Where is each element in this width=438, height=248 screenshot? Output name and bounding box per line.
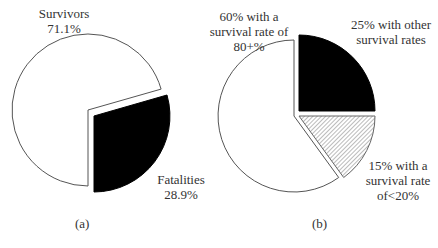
caption-a: (a) bbox=[75, 216, 89, 232]
label-white-line2: survival rate of bbox=[194, 24, 304, 39]
label-white-line3: 80+% bbox=[194, 39, 304, 54]
label-fatalities: Fatalities 28.9% bbox=[146, 172, 216, 202]
caption-b: (b) bbox=[312, 216, 327, 232]
label-black-line1: 25% with other bbox=[344, 17, 438, 32]
label-hatch-line2: survival rate bbox=[358, 173, 438, 188]
label-survival-under-20: 15% with a survival rate of<20% bbox=[358, 158, 438, 203]
label-survival-80-plus: 60% with a survival rate of 80+% bbox=[194, 9, 304, 54]
label-other-survival: 25% with other survival rates bbox=[344, 17, 438, 47]
label-black-line2: survival rates bbox=[344, 32, 438, 47]
pie-chart-a bbox=[12, 34, 170, 192]
label-hatch-line1: 15% with a bbox=[358, 158, 438, 173]
label-survivors-name: Survivors bbox=[24, 6, 104, 21]
label-fatalities-name: Fatalities bbox=[146, 172, 216, 187]
pie-chart-b bbox=[218, 35, 375, 192]
label-white-line1: 60% with a bbox=[194, 9, 304, 24]
label-survivors-value: 71.1% bbox=[24, 21, 104, 36]
label-hatch-line3: of<20% bbox=[358, 188, 438, 203]
label-fatalities-value: 28.9% bbox=[146, 187, 216, 202]
label-survivors: Survivors 71.1% bbox=[24, 6, 104, 36]
